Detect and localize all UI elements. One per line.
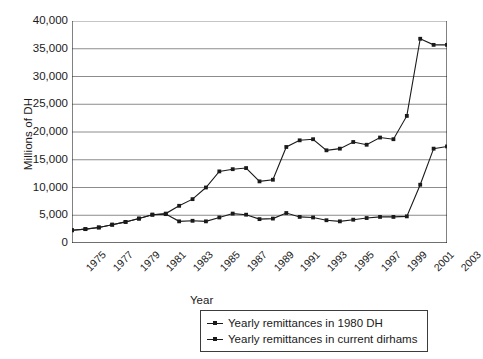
legend-marker-icon xyxy=(207,318,223,328)
x-axis-tick-label: 1987 xyxy=(245,249,269,273)
legend-item-label: Yearly remittances in 1980 DH xyxy=(228,317,383,329)
x-axis-tick-label: 1999 xyxy=(405,249,429,273)
legend-item: Yearly remittances in current dirhams xyxy=(207,331,417,347)
legend-item-label: Yearly remittances in current dirhams xyxy=(228,333,417,345)
x-axis-title: Year xyxy=(190,294,213,306)
x-axis-tick-label: 2003 xyxy=(459,249,483,273)
legend-item: Yearly remittances in 1980 DH xyxy=(207,315,417,331)
x-axis-tick-label: 1983 xyxy=(191,249,215,273)
x-axis-tick-label: 1989 xyxy=(271,249,295,273)
x-axis-tick-label: 1991 xyxy=(298,249,322,273)
x-axis-tick-label: 1997 xyxy=(378,249,402,273)
x-axis-tick-label: 1993 xyxy=(325,249,349,273)
x-axis-tick-label: 1985 xyxy=(218,249,242,273)
legend-marker-icon xyxy=(207,334,223,344)
x-axis-tick-label: 1995 xyxy=(352,249,376,273)
x-axis-tick-label: 1977 xyxy=(111,249,135,273)
x-axis-tick-label: 2001 xyxy=(432,249,456,273)
x-axis-tick-label: 1981 xyxy=(164,249,188,273)
x-axis-tick-label: 1975 xyxy=(84,249,108,273)
x-axis-tick-label: 1979 xyxy=(137,249,161,273)
chart-legend: Yearly remittances in 1980 DH Yearly rem… xyxy=(200,310,428,352)
